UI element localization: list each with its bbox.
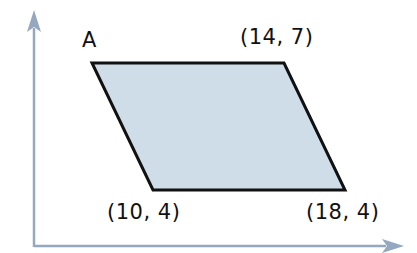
- coord-label-bottom-left: (10, 4): [107, 202, 180, 223]
- vertex-label-a: A: [82, 30, 96, 51]
- coord-label-bottom-right: (18, 4): [306, 202, 379, 223]
- x-axis: [34, 239, 404, 253]
- diagram-canvas: A (14, 7) (10, 4) (18, 4): [0, 0, 417, 253]
- parallelogram-shape: [92, 63, 345, 190]
- coord-label-top-right: (14, 7): [240, 27, 313, 48]
- y-axis: [27, 10, 41, 247]
